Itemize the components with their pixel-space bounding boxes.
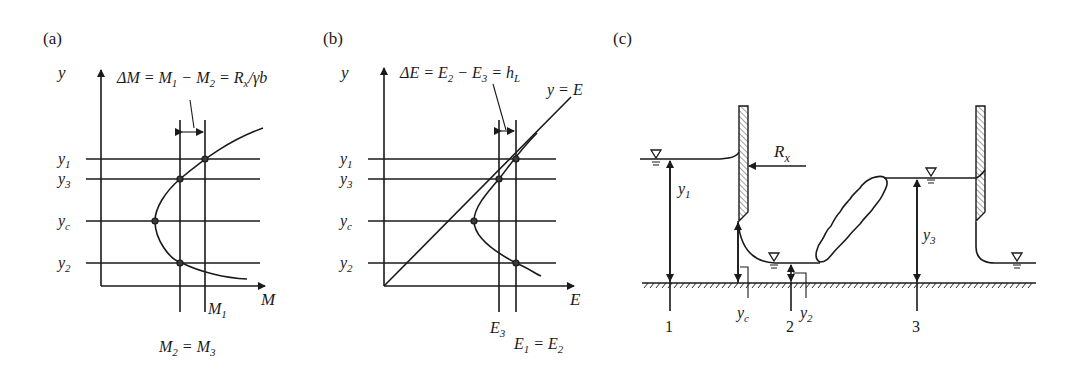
water-level-symbol-4 xyxy=(1012,253,1022,268)
specific-force-curve xyxy=(155,128,263,279)
panel-a-label: (a) xyxy=(43,29,62,48)
point-y3 xyxy=(177,176,183,182)
axis-x-label: M xyxy=(260,290,276,309)
label-e3: E3 xyxy=(489,319,506,339)
label-e1-eq-e2: E1 = E2 xyxy=(513,335,564,355)
water-level-symbol-2 xyxy=(769,253,779,268)
label-m2-eq-m3: M2 = M3 xyxy=(158,338,216,358)
point-yc xyxy=(152,218,158,224)
label-y3: y3 xyxy=(56,170,71,190)
label-y2: y2 xyxy=(338,254,353,274)
downstream-gate xyxy=(976,106,985,221)
leader-line xyxy=(190,100,194,128)
y2-leader xyxy=(793,273,806,298)
panel-b-specific-energy-diagram: (b) y E ΔE = E2 − E3 = hL y = E y1 y3 yc… xyxy=(323,29,583,355)
hydraulic-jump-roller xyxy=(816,177,887,262)
tailwater-surface xyxy=(976,222,1036,263)
label-y1: y1 xyxy=(338,150,353,170)
point-y1 xyxy=(513,156,519,162)
axis-y-label: y xyxy=(56,63,66,82)
section-1-label: 1 xyxy=(665,318,673,335)
jet-water-surface xyxy=(738,221,820,263)
depth-yc-label: yc xyxy=(735,304,749,324)
hydraulic-jump-figure: (a) y M ΔM = M1 − M2 = Rx/γb y1 y3 yc y2… xyxy=(0,0,1079,380)
point-yc xyxy=(471,218,477,224)
panel-c-label: (c) xyxy=(613,29,632,48)
panel-c-channel-sketch: (c) Rx y1 1 yc xyxy=(613,29,1036,335)
point-y2 xyxy=(513,260,519,266)
water-level-symbol-1 xyxy=(651,150,661,165)
axis-x-label: E xyxy=(569,290,581,309)
section-3-label: 3 xyxy=(912,318,920,335)
label-yc: yc xyxy=(338,212,352,232)
water-level-symbol-3 xyxy=(926,168,936,183)
depth-y1-label: y1 xyxy=(676,180,691,200)
panel-b-label: (b) xyxy=(323,29,343,48)
point-y3 xyxy=(496,176,502,182)
diagonal-label: y = E xyxy=(545,81,583,99)
specific-energy-curve xyxy=(474,133,541,276)
point-y1 xyxy=(202,156,208,162)
sluice-gate xyxy=(739,106,748,221)
section-2-label: 2 xyxy=(786,318,794,335)
force-rx-label: Rx xyxy=(773,142,790,165)
label-yc: yc xyxy=(56,212,70,232)
line-y-equals-e xyxy=(384,97,571,286)
point-y2 xyxy=(177,260,183,266)
panel-a-specific-force-diagram: (a) y M ΔM = M1 − M2 = Rx/γb y1 y3 yc y2… xyxy=(43,29,276,358)
label-y1: y1 xyxy=(56,150,71,170)
depth-y2-label: y2 xyxy=(798,304,813,324)
depth-y3-label: y3 xyxy=(921,226,936,246)
label-m1: M1 xyxy=(207,300,227,320)
axis-y-label: y xyxy=(339,63,349,82)
delta-e-equation: ΔE = E2 − E3 = hL xyxy=(399,64,520,84)
label-y2: y2 xyxy=(56,254,71,274)
delta-m-equation: ΔM = M1 − M2 = Rx/γb xyxy=(116,69,267,89)
label-y3: y3 xyxy=(338,170,353,190)
